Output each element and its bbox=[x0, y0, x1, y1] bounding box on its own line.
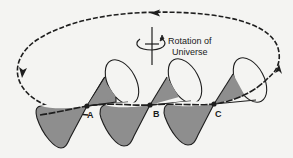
orbit-arrow-left-icon bbox=[19, 67, 27, 78]
point-label-a: A bbox=[87, 111, 94, 120]
rotation-axis-icon bbox=[137, 27, 165, 65]
godel-universe-diagram bbox=[0, 0, 293, 158]
rotation-label-line2: Universe bbox=[168, 47, 212, 58]
point-label-b: B bbox=[153, 110, 160, 119]
point-b-marker bbox=[147, 102, 152, 107]
orbit-arrow-top-icon bbox=[150, 10, 160, 17]
rotation-annotation: Rotation of Universe bbox=[168, 36, 212, 58]
point-a-marker bbox=[84, 103, 89, 108]
point-label-c: C bbox=[215, 110, 222, 119]
rotation-label-line1: Rotation of bbox=[168, 36, 212, 47]
point-c-marker bbox=[211, 101, 216, 106]
